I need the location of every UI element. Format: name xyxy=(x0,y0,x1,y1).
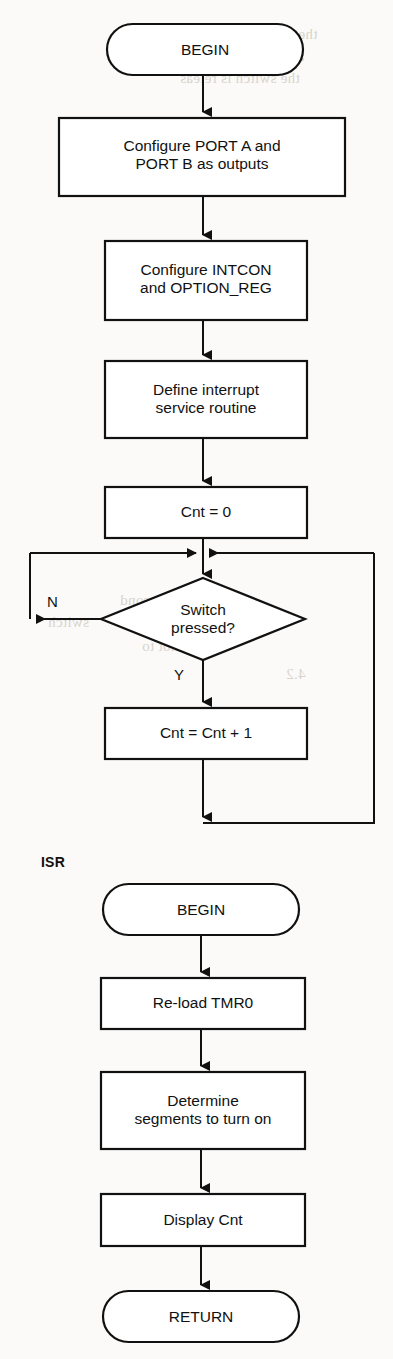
node-reload-tmr0 xyxy=(101,978,305,1029)
section-label-isr: ISR xyxy=(41,854,65,870)
node-begin xyxy=(107,24,303,75)
node-determine-segments xyxy=(101,1072,305,1149)
node-display-cnt xyxy=(101,1194,305,1246)
branch-label-yes: Y xyxy=(174,666,184,683)
node-switch-pressed xyxy=(101,578,305,660)
scanned-page-background: the termination sub and continues on b t… xyxy=(0,0,393,1359)
flowchart-diagram xyxy=(0,0,393,1359)
node-cnt-zero xyxy=(105,487,307,538)
node-cfg-ports xyxy=(59,118,345,196)
node-isr-return xyxy=(103,1291,299,1342)
node-isr-begin xyxy=(103,884,299,935)
node-def-isr xyxy=(105,361,307,438)
branch-label-no: N xyxy=(47,593,58,610)
node-cfg-regs xyxy=(105,241,307,320)
node-cnt-increment xyxy=(105,708,307,759)
